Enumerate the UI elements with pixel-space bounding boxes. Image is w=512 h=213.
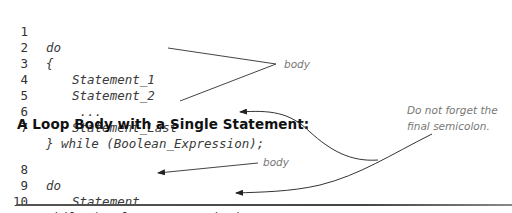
annotation-arrows — [0, 0, 512, 213]
bottom-rule — [16, 204, 512, 206]
do-while-syntax-figure: 1 do 2 { 3 Statement_1 4 Statement_2 5 .… — [0, 0, 512, 213]
body-bracket-line-top — [168, 48, 276, 64]
body-2-arrow — [158, 163, 258, 173]
semicolon-arrow-line-7 — [240, 111, 378, 160]
body-bracket-line-bottom — [180, 64, 276, 101]
semicolon-arrow-line-10 — [236, 134, 432, 193]
